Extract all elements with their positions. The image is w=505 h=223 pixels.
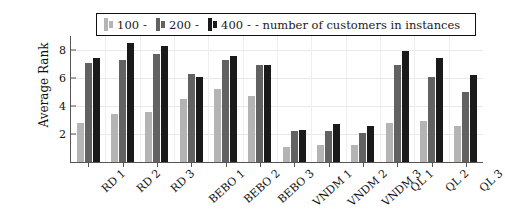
legend-label-200: 200 - (169, 18, 199, 32)
bar-ql-3-100 (454, 126, 461, 162)
bar-bebo-3-400 (264, 65, 271, 162)
bar-group-ql-2 (414, 58, 448, 162)
bar-vndm-1-400 (299, 130, 306, 162)
bar-ql-2-400 (436, 58, 443, 162)
bar-rd-2-200 (119, 60, 126, 162)
bar-bebo-3-100 (248, 96, 255, 162)
bar-group-vndm-2 (311, 124, 345, 162)
bar-group-ql-3 (449, 75, 483, 162)
legend-swatch-tall-100 (104, 18, 108, 31)
legend-swatch-small-100 (109, 21, 113, 28)
bar-group-ql-1 (380, 51, 414, 162)
bar-vndm-2-400 (333, 124, 340, 162)
bar-ql-2-200 (428, 77, 435, 162)
bar-ql-3-400 (470, 75, 477, 162)
bar-bebo-1-400 (196, 77, 203, 162)
bar-group-bebo-2 (208, 56, 242, 162)
legend-label-100: 100 - (117, 18, 147, 32)
legend-entry-400: 400 - (208, 18, 251, 32)
legend-entry-200: 200 - (156, 18, 199, 32)
bar-rd-1-400 (93, 58, 100, 162)
y-tick-label-6: 6 (59, 72, 71, 85)
y-tick-label-4: 4 (59, 100, 71, 113)
x-tick-label-rd-1: RD 1 (99, 167, 128, 195)
bar-vndm-3-200 (359, 133, 366, 162)
bar-bebo-2-400 (230, 56, 237, 162)
plot-area: 2468 (70, 36, 483, 163)
y-tick-mark (71, 50, 76, 51)
x-tick-mark (329, 162, 330, 167)
bar-bebo-1-100 (180, 99, 187, 162)
bar-vndm-3-400 (367, 126, 374, 162)
bar-rd-1-200 (85, 63, 92, 162)
bar-ql-2-100 (420, 121, 427, 162)
bar-rd-2-400 (127, 43, 134, 162)
bar-bebo-3-200 (256, 65, 263, 162)
bar-rd-3-400 (161, 46, 168, 162)
bar-ql-3-200 (462, 92, 469, 162)
bar-vndm-3-100 (351, 145, 358, 162)
bar-bebo-2-200 (222, 60, 229, 162)
bar-bebo-2-100 (214, 89, 221, 162)
bar-group-rd-1 (71, 58, 105, 162)
bar-vndm-1-200 (291, 131, 298, 162)
bar-rd-2-100 (111, 114, 118, 162)
y-tick-label-8: 8 (59, 44, 71, 57)
bar-bebo-1-200 (188, 74, 195, 162)
legend-swatch-tall-400 (208, 18, 212, 31)
x-tick-mark (157, 162, 158, 167)
x-tick-label-bebo-2: BEBO 2 (241, 167, 282, 206)
x-tick-mark (260, 162, 261, 167)
bar-group-vndm-1 (277, 130, 311, 162)
legend-suffix-label: - number of customers in instances (255, 18, 460, 32)
x-tick-mark (88, 162, 89, 167)
x-tick-mark (363, 162, 364, 167)
legend-entry-100: 100 - (104, 18, 147, 32)
x-tick-mark (294, 162, 295, 167)
bar-vndm-1-100 (283, 147, 290, 162)
x-tick-label-ql-2: QL 2 (442, 167, 471, 195)
x-tick-label-rd-3: RD 3 (168, 167, 197, 195)
x-tick-mark (397, 162, 398, 167)
legend-swatch-small-400 (213, 21, 217, 28)
y-tick-label-2: 2 (59, 128, 71, 141)
x-tick-mark (226, 162, 227, 167)
x-tick-label-rd-2: RD 2 (134, 167, 163, 195)
x-tick-mark (466, 162, 467, 167)
x-tick-label-ql-3: QL 3 (477, 167, 505, 195)
chart-legend: 100 - 200 - 400 - - number of customers … (96, 13, 476, 36)
x-tick-mark (191, 162, 192, 167)
bar-ql-1-200 (394, 65, 401, 162)
y-axis-label: Average Rank (37, 25, 51, 145)
bar-rd-1-100 (77, 123, 84, 162)
bar-ql-1-400 (402, 51, 409, 162)
x-tick-mark (432, 162, 433, 167)
bar-rd-3-200 (153, 54, 160, 162)
legend-label-400: 400 - (221, 18, 251, 32)
x-tick-mark (123, 162, 124, 167)
legend-swatch-small-200 (161, 21, 165, 28)
bar-rd-3-100 (145, 112, 152, 162)
x-tick-label-bebo-3: BEBO 3 (275, 167, 316, 206)
bar-group-rd-3 (140, 46, 174, 162)
bar-vndm-2-200 (325, 131, 332, 162)
bar-vndm-2-100 (317, 145, 324, 162)
x-tick-label-bebo-1: BEBO 1 (206, 167, 247, 206)
legend-swatch-tall-200 (156, 18, 160, 31)
bar-group-vndm-3 (346, 126, 380, 162)
bar-ql-1-100 (386, 123, 393, 162)
bar-group-bebo-1 (174, 74, 208, 162)
bar-group-bebo-3 (243, 65, 277, 162)
bar-group-rd-2 (105, 43, 139, 162)
